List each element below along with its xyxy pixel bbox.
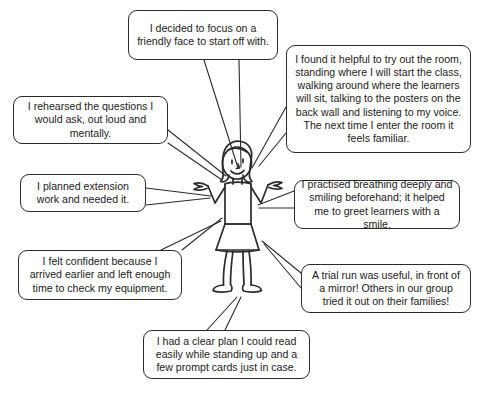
pointer-trial-run-a — [262, 241, 301, 273]
speech-bubble-trial-run-mirror-text: A trial run was useful, in front of a mi… — [308, 269, 464, 309]
pointer-rehearsed-questions-b — [168, 143, 222, 180]
speech-bubble-focus-friendly-face[interactable]: I decided to focus on a friendly face to… — [128, 10, 278, 60]
speech-bubble-practised-breathing[interactable]: I practised breathing deeply and smiling… — [294, 180, 460, 229]
figure-hair — [224, 141, 253, 182]
speech-bubble-felt-confident-arrived-early-text: I felt confident because I arrived earli… — [25, 255, 175, 295]
pointer-planned-extension-b — [146, 198, 210, 205]
figure-shoulders — [225, 182, 251, 184]
speech-bubble-clear-plan-prompt-cards[interactable]: I had a clear plan I could read easily w… — [143, 330, 310, 379]
figure-leg-right-inner — [243, 251, 244, 284]
figure-skirt — [216, 224, 259, 250]
figure-nose — [237, 164, 240, 169]
pointer-planned-extension-a — [146, 188, 211, 196]
figure-fringe — [228, 148, 247, 152]
pointer-trial-run-b — [264, 244, 301, 288]
figure-smile — [231, 171, 244, 174]
figure-arm-left — [208, 186, 225, 203]
pointer-clear-plan-a — [207, 297, 237, 330]
pointer-try-out-the-room-a — [252, 107, 286, 168]
figure-leg-left-outer — [223, 251, 227, 285]
speech-bubble-clear-plan-prompt-cards-text: I had a clear plan I could read easily w… — [150, 335, 303, 375]
figure-shoe-right — [243, 285, 262, 293]
pointer-felt-confident-b — [161, 221, 221, 250]
figure-hair-left — [221, 154, 230, 182]
speech-bubble-felt-confident-arrived-early[interactable]: I felt confident because I arrived earli… — [18, 250, 182, 300]
speech-bubble-trial-run-mirror[interactable]: A trial run was useful, in front of a mi… — [301, 264, 471, 313]
speech-bubble-practised-breathing-text: I practised breathing deeply and smiling… — [301, 178, 453, 231]
figure-hand-right — [268, 182, 282, 189]
speech-bubble-planned-extension-work[interactable]: I planned extension work and needed it. — [20, 174, 146, 212]
pointer-focus-friendly-face-a — [204, 60, 238, 168]
diagram-canvas: I decided to focus on a friendly face to… — [0, 0, 489, 398]
figure-skirt-hem — [216, 250, 259, 252]
speech-bubble-rehearsed-questions[interactable]: I rehearsed the questions I would ask, o… — [13, 96, 168, 144]
pointer-practised-breathing-a — [258, 191, 294, 205]
speech-bubble-focus-friendly-face-text: I decided to focus on a friendly face to… — [135, 22, 271, 48]
figure-leg-left-inner — [231, 251, 234, 284]
figure-leg-right-outer — [249, 251, 251, 285]
speech-bubble-try-out-the-room-text: I found it helpful to try out the room, … — [293, 53, 464, 145]
figure-hand-left — [194, 183, 208, 190]
pointer-felt-confident-a — [182, 218, 222, 250]
figure-head — [223, 147, 252, 179]
pointer-clear-plan-b — [225, 297, 241, 330]
speech-bubble-planned-extension-work-text: I planned extension work and needed it. — [27, 180, 139, 206]
speech-bubble-rehearsed-questions-text: I rehearsed the questions I would ask, o… — [20, 100, 161, 140]
pointer-rehearsed-questions-a — [168, 130, 226, 176]
speech-bubble-try-out-the-room[interactable]: I found it helpful to try out the room, … — [286, 45, 471, 153]
pointer-focus-friendly-face-b — [239, 60, 241, 167]
figure-torso — [225, 184, 251, 224]
figure-arm-right — [251, 185, 268, 203]
figure-shoe-left — [213, 285, 232, 293]
pointer-try-out-the-room-b — [259, 133, 286, 166]
